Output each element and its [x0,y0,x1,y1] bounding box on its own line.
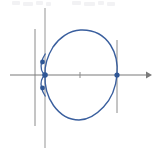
point-lower-left-marker [40,86,45,91]
figure-root [0,0,157,153]
plot-canvas [0,0,157,153]
point-cusp-marker [42,72,48,78]
axis-arrow-icon [146,72,152,79]
point-upper-left-marker [40,60,45,65]
point-right-marker [114,72,119,77]
